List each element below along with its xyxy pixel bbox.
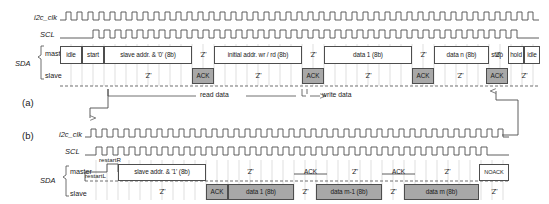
panel-a-slave-cell-ack-1: ACK bbox=[192, 68, 214, 84]
panel-a-master-cell-idle: idle bbox=[60, 46, 82, 64]
panel-a-read-data-annotation: read data bbox=[200, 92, 229, 99]
panel-a-slave-cell-ack-4: ACK bbox=[486, 68, 508, 84]
panel-a-i2c-clk-label: i2c_clk bbox=[34, 14, 57, 22]
panel-a-master-cell-data-1: data 1 (8b) bbox=[324, 46, 412, 64]
panel-a-slave-cell-z-4: 'Z' bbox=[434, 68, 486, 84]
panel-a-master-cell-stop: stop bbox=[486, 46, 508, 64]
panel-a-slave-cell-ack-2: ACK bbox=[302, 68, 324, 84]
panel-a-master-cell-idle-2: idle bbox=[524, 46, 540, 64]
panel-a-slave-cell-ack-3: ACK bbox=[412, 68, 434, 84]
panel-b-slave-cell-data-1: data 1 (8b) bbox=[228, 184, 294, 200]
panel-b-slave-cell-z-4: 'Z' bbox=[479, 184, 509, 200]
panel-b-id: (b) bbox=[22, 131, 34, 141]
panel-a-master-cell-hold: hold bbox=[508, 46, 524, 64]
panel-a-sda-label: SDA bbox=[15, 60, 30, 68]
panel-a-i2c-clk-waveform bbox=[60, 12, 539, 20]
panel-b-sda-bracket bbox=[63, 166, 69, 196]
panel-a-master-cell-z-2: 'Z' bbox=[302, 46, 324, 64]
panel-b-master-cell-slave-addr: slave addr. & '1' (8b) bbox=[118, 164, 206, 181]
panel-b-slave-cell-z-2: 'Z' bbox=[294, 184, 316, 200]
panel-b-to-a-feedback-arrow bbox=[496, 91, 518, 135]
panel-b-master-cell-z-3: 'Z' bbox=[415, 164, 479, 181]
panel-a-master-cell-z-3: 'Z' bbox=[412, 46, 434, 64]
panel-a-slave-label: slave bbox=[45, 72, 62, 79]
panel-a-to-b-flow-arrow bbox=[90, 89, 108, 118]
panel-b-i2c-clk-label: i2c_clk bbox=[59, 131, 82, 139]
panel-a-master-cell-z-1: 'Z' bbox=[192, 46, 214, 64]
panel-a-id: (a) bbox=[22, 98, 34, 108]
panel-b-master-cell-z-1: 'Z' bbox=[206, 164, 294, 181]
panel-a-slave-cell-z-3: 'Z' bbox=[324, 68, 412, 84]
panel-a-master-cell-slave-addr: slave addr. & '0' (8b) bbox=[104, 46, 192, 64]
panel-b-master-cell-ack-2: ACK bbox=[382, 164, 415, 181]
panel-b-master-cell-ack-1: ACK bbox=[294, 164, 327, 181]
panel-a-slave-cell-z-2: 'Z' bbox=[214, 68, 302, 84]
panel-b-slave-cell-z-1: 'Z' bbox=[118, 184, 206, 200]
timing-diagram-figure: (a) i2c_clk SCL SDA master slave idle st… bbox=[0, 0, 549, 204]
panel-a-slave-cell-z-5: 'Z' bbox=[508, 68, 540, 84]
panel-b-scl-label: SCL bbox=[65, 148, 80, 156]
panel-b-slave-cell-ack-1: ACK bbox=[206, 184, 228, 200]
panel-b-sda-label: SDA bbox=[40, 177, 55, 185]
panel-b-slave-label: slave bbox=[70, 190, 87, 197]
panel-b-restart-l-label: restartL bbox=[85, 173, 106, 179]
panel-b-master-cell-noack: NOACK bbox=[479, 164, 509, 181]
panel-a-master-cell-initial-addr: initial addr. wr / rd (8b) bbox=[214, 46, 302, 64]
panel-b-master-cell-z-2: 'Z' bbox=[327, 164, 382, 181]
panel-b-i2c-clk-waveform bbox=[85, 129, 509, 137]
panel-a-master-cell-start: start bbox=[82, 46, 104, 64]
panel-a-sda-bracket bbox=[38, 46, 44, 79]
panel-b-scl-waveform bbox=[85, 147, 509, 155]
panel-a-scl-label: SCL bbox=[40, 31, 55, 39]
panel-b-slave-cell-data-m-1: data m-1 (8b) bbox=[316, 184, 382, 200]
panel-b-slave-cell-data-m: data m (8b) bbox=[404, 184, 479, 200]
panel-a-scl-waveform bbox=[60, 30, 539, 38]
panel-a-slave-cell-z-1: 'Z' bbox=[104, 68, 192, 84]
panel-b-restart-r-label: restartR bbox=[99, 157, 121, 163]
panel-a-write-data-annotation: write data bbox=[322, 92, 351, 99]
panel-b-slave-cell-z-3: 'Z' bbox=[382, 184, 404, 200]
panel-a-master-cell-data-n: data n (8b) bbox=[434, 46, 489, 64]
